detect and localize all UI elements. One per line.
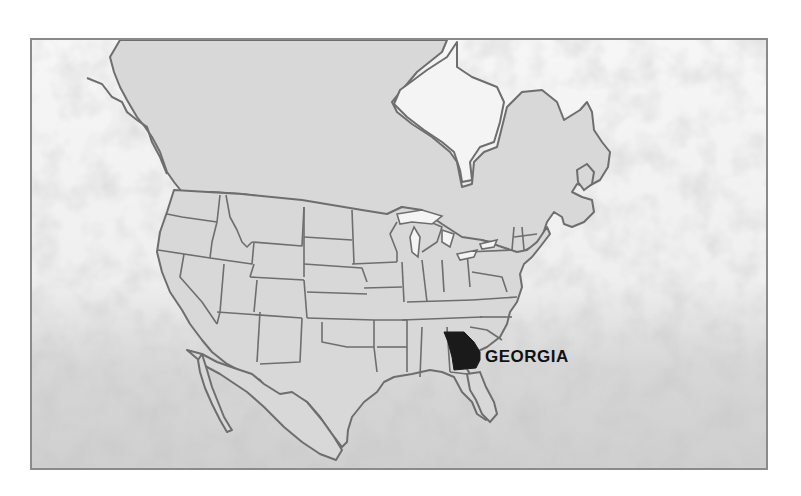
- north-america-map: [30, 38, 768, 470]
- georgia-label: GEORGIA: [485, 347, 569, 367]
- map-frame: GEORGIA: [30, 38, 768, 470]
